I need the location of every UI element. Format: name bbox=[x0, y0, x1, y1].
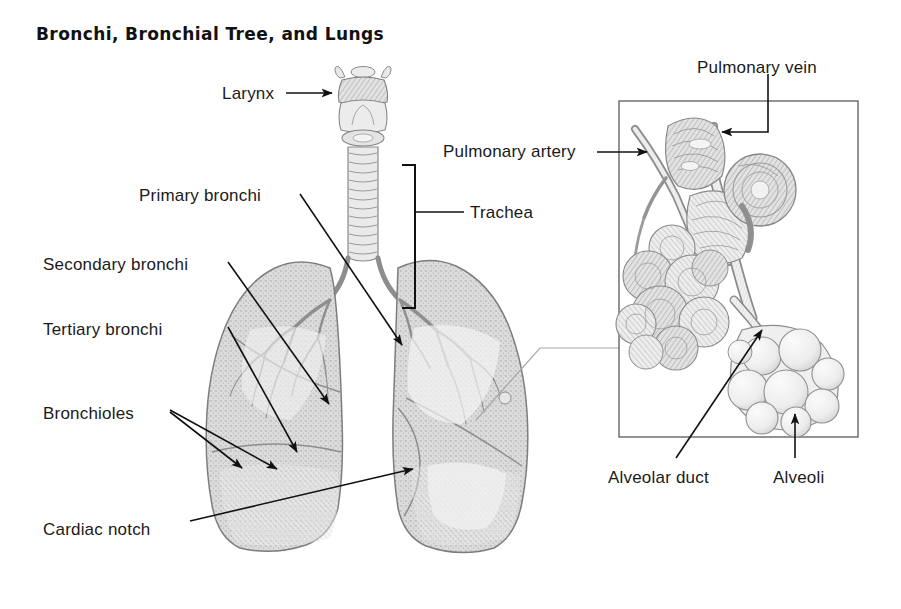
label-alveolar-duct: Alveolar duct bbox=[608, 468, 709, 488]
alveolar-sac-illustration bbox=[616, 118, 844, 437]
label-pulmonary-artery: Pulmonary artery bbox=[443, 142, 576, 162]
trachea-illustration bbox=[328, 147, 400, 300]
right-lung-illustration bbox=[206, 262, 342, 551]
figure-canvas: Bronchi, Bronchial Tree, and Lungs bbox=[0, 0, 901, 609]
label-cardiac-notch: Cardiac notch bbox=[43, 520, 151, 540]
label-tertiary-bronchi: Tertiary bronchi bbox=[43, 320, 162, 340]
leader-pulmonary-vein bbox=[722, 74, 768, 132]
alveoli-cluster bbox=[728, 325, 844, 437]
label-bronchioles: Bronchioles bbox=[43, 404, 134, 424]
left-lung-illustration bbox=[393, 260, 528, 552]
anatomy-illustration bbox=[0, 0, 901, 609]
label-alveoli: Alveoli bbox=[773, 468, 824, 488]
label-primary-bronchi: Primary bronchi bbox=[139, 186, 261, 206]
label-pulmonary-vein: Pulmonary vein bbox=[697, 58, 817, 78]
larynx-illustration bbox=[335, 66, 391, 146]
label-secondary-bronchi: Secondary bronchi bbox=[43, 255, 188, 275]
label-trachea: Trachea bbox=[470, 203, 533, 223]
label-larynx: Larynx bbox=[222, 84, 274, 104]
